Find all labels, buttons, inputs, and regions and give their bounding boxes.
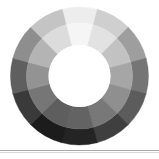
horizontal-divider	[0, 150, 159, 151]
figure-canvas	[0, 0, 159, 159]
wheel-segment-outer-ring-sector-10[interactable]	[10, 58, 28, 94]
donut-hole	[49, 45, 111, 107]
wheel-segment-outer-ring-sector-04[interactable]	[131, 58, 149, 94]
wheel-segment-outer-ring-sector-07[interactable]	[61, 127, 97, 145]
wheel-segment-outer-ring-sector-01[interactable]	[62, 7, 98, 25]
color-wheel-chart	[0, 0, 159, 159]
horizontal-divider-shadow	[0, 152, 159, 153]
